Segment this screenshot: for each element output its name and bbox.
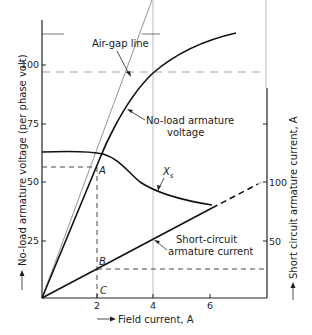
sc-line-faint: [258, 182, 262, 184]
air-gap-leader: [117, 51, 129, 74]
right-y-label-group: Short circuit armature current, A: [288, 116, 299, 300]
no-load-curve: [42, 33, 236, 298]
xs-subscript: s: [170, 172, 174, 180]
no-load-label-2: voltage: [167, 127, 204, 138]
x-tick-6: 6: [207, 300, 213, 311]
left-y-axis-label: No-load armature voltage (per phase volt…: [17, 54, 28, 266]
point-b-label: B: [99, 256, 106, 267]
x-tick-2: 2: [94, 300, 100, 311]
y-tick-25: 25: [27, 235, 39, 246]
y-tick-75: 75: [27, 118, 39, 129]
y-tick-50: 50: [27, 176, 39, 187]
x-label-arrowhead: [110, 317, 116, 322]
right-y-axis-label: Short circuit armature current, A: [288, 116, 299, 279]
x-tick-4: 4: [150, 300, 156, 311]
xs-curve: [42, 151, 212, 205]
sc-label-2: armature current: [168, 246, 254, 257]
air-gap-label: Air-gap line: [92, 38, 149, 49]
sc-label-1: Short-circuit: [176, 234, 237, 245]
no-load-label-1: No-load armature: [146, 115, 234, 126]
yr-tick-100: 100: [269, 177, 287, 188]
chart: 100 75 50 25 100 50 2 4 6 A B C Air-gap …: [0, 0, 312, 335]
x-axis-label: Field current, A: [118, 314, 194, 325]
no-load-leader: [130, 111, 145, 120]
yr-tick-50: 50: [269, 236, 281, 247]
left-y-label-group: No-load armature voltage (per phase volt…: [17, 54, 28, 290]
point-c-label: C: [100, 285, 107, 296]
point-a-label: A: [98, 165, 106, 176]
xs-arrowhead: [157, 185, 161, 191]
sc-line-dashed: [212, 184, 258, 208]
